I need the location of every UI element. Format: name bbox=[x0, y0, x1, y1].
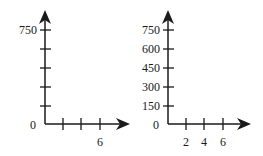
right-y-label-450: 450 bbox=[142, 61, 160, 75]
right-y-label-150: 150 bbox=[142, 99, 160, 113]
right-y-label-300: 300 bbox=[142, 80, 160, 94]
left-x-label-6: 6 bbox=[97, 135, 103, 149]
right-x-label-2: 2 bbox=[183, 135, 189, 149]
right-x-label-6: 6 bbox=[220, 135, 226, 149]
left-y-label-750: 750 bbox=[19, 23, 37, 37]
right-y-label-600: 600 bbox=[142, 42, 160, 56]
left-origin-label: 0 bbox=[30, 118, 36, 132]
left-chart: 750 0 6 bbox=[19, 10, 130, 149]
right-y-label-750: 750 bbox=[142, 23, 160, 37]
chart-canvas: 750 0 6 750 600 450 300 150 0 2 4 6 bbox=[0, 0, 263, 156]
right-origin-label: 0 bbox=[153, 118, 159, 132]
right-chart: 750 600 450 300 150 0 2 4 6 bbox=[142, 10, 251, 149]
right-x-label-4: 4 bbox=[201, 135, 207, 149]
